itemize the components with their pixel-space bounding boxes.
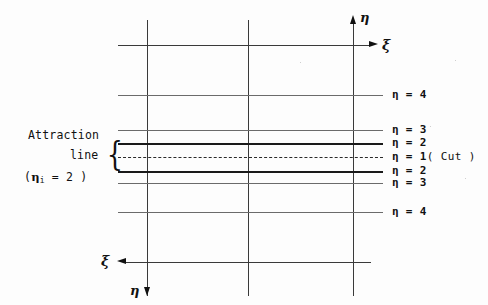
cut-annotation: ( Cut ) [427, 150, 476, 163]
eta-axis-bottom-arrowhead [144, 287, 150, 296]
attraction-brace: { [107, 136, 123, 170]
eta-i-subscript: i [40, 176, 45, 185]
row-label-eta-3-upper: η = 3 [392, 123, 427, 136]
row-label-eta-1-cut: η = 1( Cut ) [392, 150, 476, 163]
row-label-eta-1-text: η = 1 [392, 150, 427, 163]
row-label-eta-4-lower: η = 4 [392, 205, 427, 218]
vertical-grid-line-3 [353, 20, 354, 296]
xi-axis-bottom-line [126, 262, 371, 263]
row-label-eta-3-lower: η = 3 [392, 176, 427, 189]
eta-axis-top-arrowhead [350, 15, 356, 24]
xi-axis-top-line [118, 45, 371, 46]
attraction-line-label-row2: line [70, 148, 99, 162]
eta-4-upper-line [118, 95, 383, 96]
xi-axis-top-label: ξ [382, 37, 390, 53]
diagram-canvas: η ξ ξ η η = 4 η = 3 η = 2 η = 1( Cut ) η… [0, 0, 488, 305]
scan-speck [465, 178, 466, 179]
scan-speck [455, 60, 456, 61]
scan-speck [430, 126, 431, 127]
eta-2-upper-line [118, 143, 383, 145]
scan-speck [300, 62, 301, 63]
row-label-eta-2-upper: η = 2 [392, 136, 427, 149]
eta-2-lower-line [118, 171, 383, 173]
eta-i-rest: = 2 ) [52, 170, 88, 184]
xi-axis-bottom-label: ξ [101, 253, 109, 269]
eta-i-value-label: (ηi = 2 ) [24, 170, 87, 185]
attraction-line-label-row1: Attraction [28, 128, 99, 142]
row-label-eta-4-upper: η = 4 [392, 88, 427, 101]
xi-axis-bottom-arrowhead [117, 258, 126, 264]
vertical-grid-line-2 [248, 20, 249, 296]
eta-4-lower-line [118, 212, 383, 213]
eta-axis-bottom-label: η [130, 283, 139, 298]
vertical-grid-line-1 [147, 20, 148, 296]
eta-i-symbol: η [31, 170, 40, 184]
eta-axis-top-label: η [360, 10, 369, 25]
eta-1-cut-line [118, 157, 383, 158]
eta-3-lower-line [118, 183, 383, 184]
xi-axis-top-arrowhead [369, 41, 378, 47]
eta-3-upper-line [118, 130, 383, 131]
